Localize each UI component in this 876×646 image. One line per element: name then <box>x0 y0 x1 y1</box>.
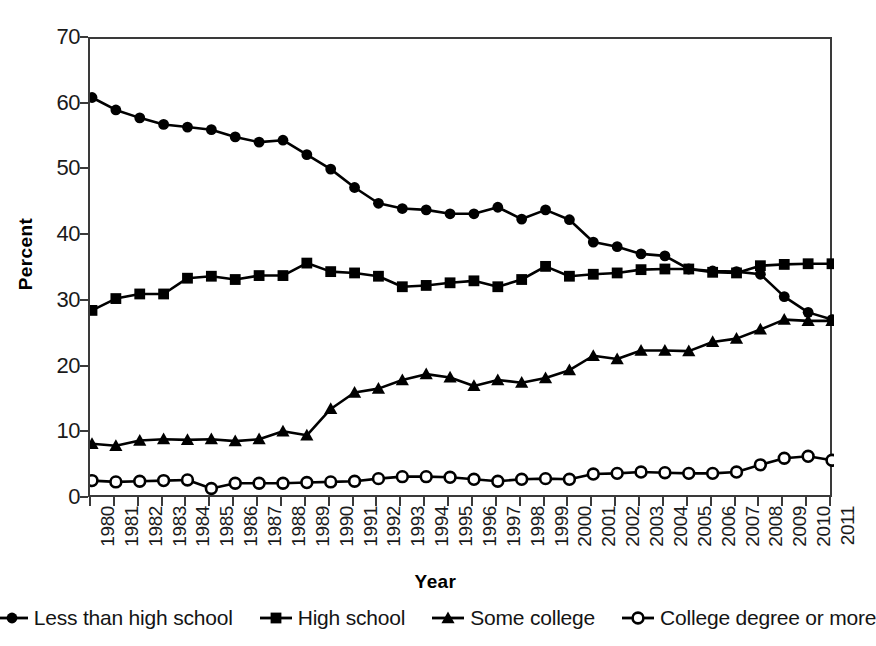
x-tick-label: 1997 <box>503 506 525 547</box>
legend-item[interactable]: Less than high school <box>0 606 233 630</box>
y-tick-label: 70 <box>57 24 80 50</box>
data-point <box>636 264 647 275</box>
data-point <box>469 208 480 219</box>
data-point <box>110 477 121 488</box>
x-tick-mark <box>686 497 688 506</box>
x-tick-mark <box>519 497 521 506</box>
data-point <box>469 474 480 485</box>
y-tick-mark <box>80 365 88 367</box>
x-tick-mark <box>328 497 330 506</box>
x-tick-label: 1993 <box>407 506 429 547</box>
data-point <box>278 135 289 146</box>
y-tick-label: 60 <box>57 90 80 116</box>
data-point <box>421 471 432 482</box>
data-point <box>779 291 790 302</box>
data-point <box>731 268 742 279</box>
x-tick-mark <box>495 497 497 506</box>
data-point <box>660 467 671 478</box>
chart-canvas <box>90 39 834 499</box>
x-tick-mark <box>113 497 115 506</box>
legend-label: Less than high school <box>34 606 233 630</box>
x-tick-label: 2011 <box>837 506 859 545</box>
data-point <box>397 203 408 214</box>
y-tick-mark <box>80 102 88 104</box>
legend-item[interactable]: College degree or more <box>621 606 876 630</box>
x-tick-mark <box>447 497 449 506</box>
x-tick-mark <box>734 497 736 506</box>
y-tick-mark <box>80 430 88 432</box>
data-point <box>373 271 384 282</box>
data-point <box>636 467 647 478</box>
data-point <box>90 305 97 316</box>
y-tick-mark <box>80 233 88 235</box>
x-tick-mark <box>710 497 712 506</box>
data-point <box>755 260 766 271</box>
data-point <box>182 122 193 133</box>
data-point <box>276 425 289 437</box>
data-point <box>90 92 97 103</box>
x-tick-label: 1996 <box>479 506 501 547</box>
y-axis-label: Percent <box>15 184 37 324</box>
x-tick-mark <box>256 497 258 506</box>
data-point <box>325 164 336 175</box>
x-tick-label: 2001 <box>598 506 620 547</box>
data-point <box>349 268 360 279</box>
series-less-than-high-school <box>90 92 834 325</box>
data-point <box>134 112 145 123</box>
data-point <box>612 241 623 252</box>
data-point <box>803 258 814 269</box>
x-tick-label: 2006 <box>718 506 740 547</box>
data-point <box>373 473 384 484</box>
x-tick-mark <box>184 497 186 506</box>
data-point <box>755 459 766 470</box>
data-point <box>325 266 336 277</box>
data-point <box>588 237 599 248</box>
data-point <box>110 105 121 116</box>
data-point <box>707 267 718 278</box>
data-point <box>90 475 97 486</box>
data-point <box>158 119 169 130</box>
legend-marker-filled-triangle-icon <box>431 608 465 628</box>
data-point <box>445 277 456 288</box>
data-point <box>421 280 432 291</box>
data-point <box>516 274 527 285</box>
data-point <box>588 269 599 280</box>
data-point <box>254 137 265 148</box>
x-tick-mark <box>781 497 783 506</box>
data-point <box>612 468 623 479</box>
x-tick-label: 1984 <box>192 506 214 547</box>
y-tick-mark <box>80 299 88 301</box>
data-point <box>301 477 312 488</box>
data-point <box>134 476 145 487</box>
x-tick-label: 1995 <box>455 506 477 547</box>
legend-label: High school <box>298 606 406 630</box>
x-tick-label: 2003 <box>646 506 668 547</box>
data-point <box>349 476 360 487</box>
data-point <box>445 208 456 219</box>
data-point <box>301 258 312 269</box>
legend-label: College degree or more <box>660 606 876 630</box>
data-point <box>349 182 360 193</box>
data-point <box>278 270 289 281</box>
data-point <box>540 473 551 484</box>
legend-item[interactable]: Some college <box>431 606 595 630</box>
data-point <box>492 281 503 292</box>
y-tick-mark <box>80 167 88 169</box>
data-point <box>182 273 193 284</box>
x-tick-mark <box>614 497 616 506</box>
data-point <box>588 469 599 480</box>
data-point <box>182 475 193 486</box>
data-point <box>564 271 575 282</box>
data-point <box>206 124 217 135</box>
x-tick-label: 1990 <box>336 506 358 547</box>
data-point <box>158 289 169 300</box>
data-point <box>779 259 790 270</box>
x-tick-mark <box>208 497 210 506</box>
x-tick-label: 1985 <box>216 506 238 547</box>
x-tick-label: 1982 <box>145 506 167 547</box>
data-point <box>540 204 551 215</box>
data-point <box>731 467 742 478</box>
legend-item[interactable]: High school <box>259 606 406 630</box>
y-tick-label: 0 <box>68 484 80 510</box>
